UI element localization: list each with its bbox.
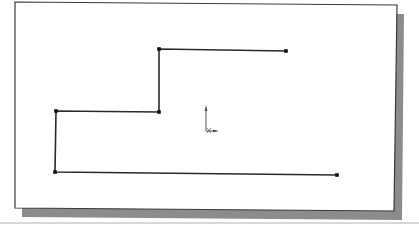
sketch-canvas[interactable]: [0, 0, 419, 225]
sketch-vertex-3[interactable]: [54, 109, 58, 113]
sketch-vertex-6[interactable]: [284, 49, 288, 53]
bottom-rule: [0, 222, 419, 224]
sketch-vertex-2[interactable]: [53, 170, 57, 174]
sketch-vertex-5[interactable]: [157, 47, 161, 51]
sketch-vertex-1[interactable]: [335, 173, 339, 177]
sketch-vertex-4[interactable]: [157, 110, 161, 114]
